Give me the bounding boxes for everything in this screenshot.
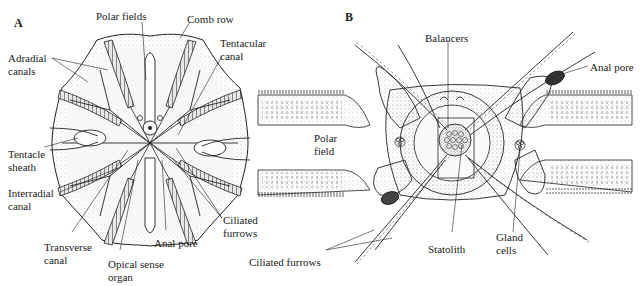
ctenophore-anatomy-figure: A Polar fields Comb row Tentacular canal… [0, 0, 640, 286]
label-anal-pore-a: Anal pore [154, 237, 198, 249]
label-opical-sense-organ-line1: Opical sense [108, 258, 164, 270]
label-transverse-canal-line1: Transverse [44, 241, 92, 253]
label-transverse-canal-line2: canal [44, 254, 67, 266]
label-statolith: Statolith [428, 243, 465, 255]
label-ciliated-furrows-a-line2: furrows [223, 227, 257, 239]
label-anal-pore-b: Anal pore [590, 61, 634, 73]
label-tentacular-canal-line2: canal [220, 50, 243, 62]
label-gland-cells-line2: cells [496, 244, 516, 256]
label-interradial-canal-line1: Interradial [8, 187, 54, 199]
label-ciliated-furrows-b: Ciliated furrows [249, 256, 321, 268]
label-adradial-canals-line2: canals [8, 65, 35, 77]
label-polar-field-line1: Polar [314, 132, 337, 144]
label-interradial-canal-line2: canal [8, 200, 31, 212]
panel-a-letter: A [14, 16, 23, 31]
label-polar-fields: Polar fields [96, 10, 146, 22]
label-comb-row: Comb row [187, 13, 234, 25]
label-tentacular-canal-line1: Tentacular [220, 37, 266, 49]
label-polar-field-line2: field [314, 145, 334, 157]
label-gland-cells-line1: Gland [496, 231, 523, 243]
panel-b-letter: B [345, 10, 353, 25]
label-opical-sense-organ-line2: organ [108, 271, 133, 283]
label-tentacle-sheath-line2: sheath [8, 161, 36, 173]
label-balancers: Balancers [425, 32, 468, 44]
label-tentacle-sheath-line1: Tentacle [8, 148, 45, 160]
label-ciliated-furrows-a-line1: Ciliated [223, 214, 258, 226]
label-adradial-canals-line1: Adradial [8, 52, 46, 64]
